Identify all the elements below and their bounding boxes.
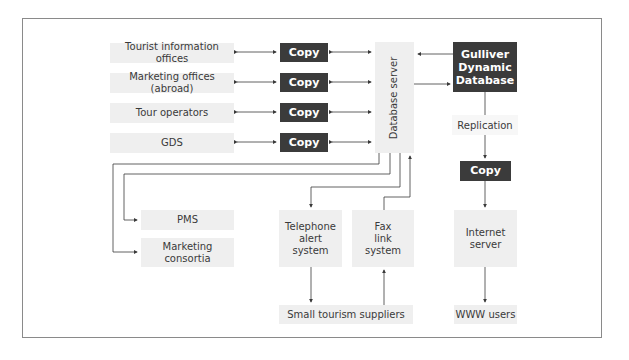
source-tourist-information-offices: Tourist information offices bbox=[110, 43, 234, 63]
telephone-alert-system: Telephone alert system bbox=[279, 210, 342, 267]
small-tourism-suppliers: Small tourism suppliers bbox=[279, 305, 413, 324]
copy-box-replica: Copy bbox=[460, 161, 511, 181]
gulliver-dynamic-database: Gulliver Dynamic Database bbox=[453, 42, 517, 92]
marketing-consortia-label-line: consortia bbox=[164, 253, 210, 265]
copy-box-2: Copy bbox=[280, 73, 328, 92]
copy-label: Copy bbox=[289, 77, 320, 89]
source-gds: GDS bbox=[110, 133, 234, 153]
fax-label-line: system bbox=[365, 245, 401, 257]
gulliver-label-line: Database bbox=[456, 74, 515, 87]
copy-label: Copy bbox=[289, 47, 320, 59]
source-marketing-offices: Marketing offices (abroad) bbox=[110, 73, 234, 93]
source-label: GDS bbox=[161, 137, 183, 149]
source-label: Tour operators bbox=[136, 107, 208, 119]
fax-label-line: Fax bbox=[375, 221, 392, 233]
gulliver-label-line: Dynamic bbox=[458, 61, 511, 74]
pms-box: PMS bbox=[141, 210, 234, 230]
source-tour-operators: Tour operators bbox=[110, 103, 234, 123]
pms-label: PMS bbox=[177, 214, 198, 226]
marketing-consortia-box: Marketing consortia bbox=[141, 238, 234, 267]
internet-server: Internet server bbox=[454, 210, 517, 267]
copy-label: Copy bbox=[289, 107, 320, 119]
copy-box-1: Copy bbox=[280, 43, 328, 62]
www-users: WWW users bbox=[454, 305, 517, 324]
fax-link-system: Fax link system bbox=[352, 210, 414, 267]
copy-label: Copy bbox=[470, 165, 501, 177]
internet-server-label-line: Internet bbox=[466, 227, 506, 239]
source-label: Tourist information offices bbox=[110, 41, 234, 65]
source-label: Marketing offices (abroad) bbox=[110, 71, 234, 95]
replication-text: Replication bbox=[457, 120, 512, 131]
telephone-label-line: Telephone bbox=[285, 221, 336, 233]
internet-server-label-line: server bbox=[470, 239, 502, 251]
telephone-label-line: system bbox=[292, 245, 328, 257]
database-server: Database server bbox=[375, 42, 414, 153]
marketing-consortia-label-line: Marketing bbox=[163, 241, 213, 253]
copy-box-4: Copy bbox=[280, 133, 328, 152]
telephone-label-line: alert bbox=[299, 233, 322, 245]
copy-label: Copy bbox=[289, 137, 320, 149]
replication-label: Replication bbox=[452, 115, 518, 135]
copy-box-3: Copy bbox=[280, 103, 328, 122]
small-suppliers-label: Small tourism suppliers bbox=[287, 309, 405, 321]
database-server-label: Database server bbox=[389, 56, 401, 139]
www-users-label: WWW users bbox=[456, 309, 516, 321]
fax-label-line: link bbox=[374, 233, 392, 245]
gulliver-label-line: Gulliver bbox=[461, 48, 509, 61]
